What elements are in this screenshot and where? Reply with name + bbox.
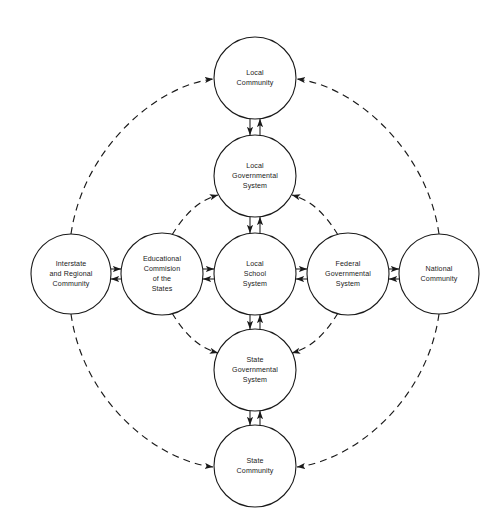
node-label-national-community-line-1: National — [426, 265, 453, 273]
node-label-state-governmental-system-line-1: State — [246, 356, 263, 364]
node-educational-commision-of-the-states[interactable]: Educational Commision of the States — [121, 233, 203, 315]
node-local-school-system[interactable]: Local School System — [214, 233, 296, 315]
node-local-governmental-system[interactable]: Local Governmental System — [214, 135, 296, 217]
link-educational-commision-local-school-system — [203, 269, 214, 279]
diagram-nodes: Local Community Local Governmental Syste… — [31, 37, 479, 507]
node-label-local-community-line-1: Local — [246, 69, 264, 77]
node-label-local-school-system-line-3: System — [243, 280, 267, 288]
node-label-educational-commision-line-1: Educational — [143, 255, 181, 263]
node-local-community[interactable]: Local Community — [214, 37, 296, 119]
node-circle-state-community[interactable] — [214, 425, 296, 507]
node-label-federal-governmental-system-line-1: Federal — [336, 260, 361, 268]
arc-national-community-to-local-community — [297, 79, 439, 234]
node-federal-governmental-system[interactable]: Federal Governmental System — [307, 233, 389, 315]
link-local-governmental-system-local-school-system — [250, 217, 260, 233]
arc-national-community-to-state-community — [297, 314, 439, 467]
node-label-state-governmental-system-line-3: System — [243, 376, 267, 384]
link-local-school-system-federal-governmental-system — [296, 269, 307, 279]
arc-interstate-to-local-community — [71, 79, 213, 234]
node-label-national-community-line-2: Community — [421, 275, 458, 283]
node-circle-educational-commision-of-the-states[interactable] — [121, 233, 203, 315]
node-label-interstate-line-1: Interstate — [56, 260, 87, 268]
node-label-state-community-line-1: State — [246, 457, 263, 465]
node-label-local-governmental-system-line-3: System — [243, 182, 267, 190]
systems-relationship-diagram: Local Community Local Governmental Syste… — [0, 0, 499, 530]
arc-educational-commision-to-local-governmental-system — [172, 195, 218, 235]
link-state-governmental-system-state-community — [250, 411, 260, 425]
node-label-local-governmental-system-line-1: Local — [246, 162, 264, 170]
node-label-local-school-system-line-1: Local — [246, 260, 264, 268]
link-local-school-system-state-governmental-system — [250, 315, 260, 329]
diagram-canvas: Local Community Local Governmental Syste… — [0, 0, 499, 530]
node-label-educational-commision-line-2: Commision — [144, 265, 180, 273]
link-federal-governmental-system-national-community — [389, 269, 399, 279]
node-label-interstate-line-3: Community — [53, 280, 90, 288]
arc-educational-commision-to-state-governmental-system — [172, 313, 218, 353]
arc-federal-governmental-system-to-local-governmental-system — [292, 195, 338, 235]
node-label-federal-governmental-system-line-3: System — [336, 280, 360, 288]
node-label-local-governmental-system-line-2: Governmental — [232, 172, 278, 180]
arc-interstate-to-state-community — [71, 314, 213, 467]
node-state-governmental-system[interactable]: State Governmental System — [214, 329, 296, 411]
node-state-community[interactable]: State Community — [214, 425, 296, 507]
node-national-community[interactable]: National Community — [399, 234, 479, 314]
node-label-educational-commision-line-4: States — [152, 285, 173, 293]
node-label-educational-commision-line-3: of the — [153, 275, 171, 283]
link-interstate-educational-commision — [111, 269, 121, 279]
node-label-local-community-line-2: Community — [237, 79, 274, 87]
node-label-state-governmental-system-line-2: Governmental — [232, 366, 278, 374]
node-interstate-and-regional-community[interactable]: Interstate and Regional Community — [31, 234, 111, 314]
node-circle-national-community[interactable] — [399, 234, 479, 314]
link-local-community-local-governmental-system — [250, 119, 260, 135]
node-circle-local-community[interactable] — [214, 37, 296, 119]
node-label-interstate-line-2: and Regional — [49, 270, 92, 278]
node-label-federal-governmental-system-line-2: Governmental — [325, 270, 371, 278]
arc-federal-governmental-system-to-state-governmental-system — [292, 313, 338, 353]
node-label-local-school-system-line-2: School — [244, 270, 267, 278]
node-label-state-community-line-2: Community — [237, 467, 274, 475]
